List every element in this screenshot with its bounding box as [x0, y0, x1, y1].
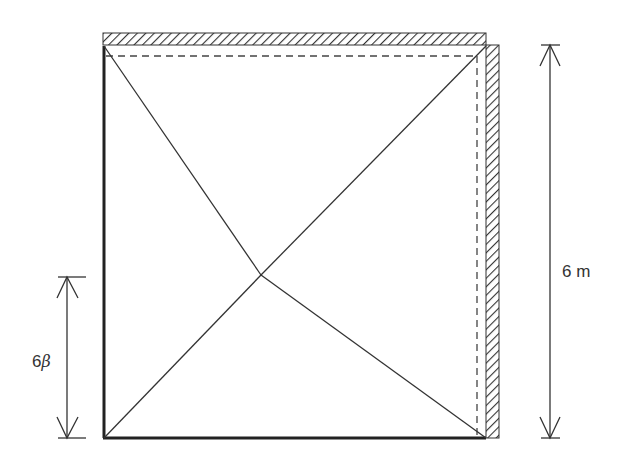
offset-dimension	[57, 277, 86, 438]
right-support-hatch	[486, 45, 499, 438]
yield-lines	[104, 46, 486, 438]
span-label: 6 m	[562, 262, 590, 282]
offset-label: 6β	[32, 352, 51, 372]
offset-label-beta: β	[41, 352, 50, 371]
slab-diagram	[0, 0, 623, 468]
span-dimension	[540, 45, 560, 438]
top-support-hatch	[103, 33, 486, 45]
